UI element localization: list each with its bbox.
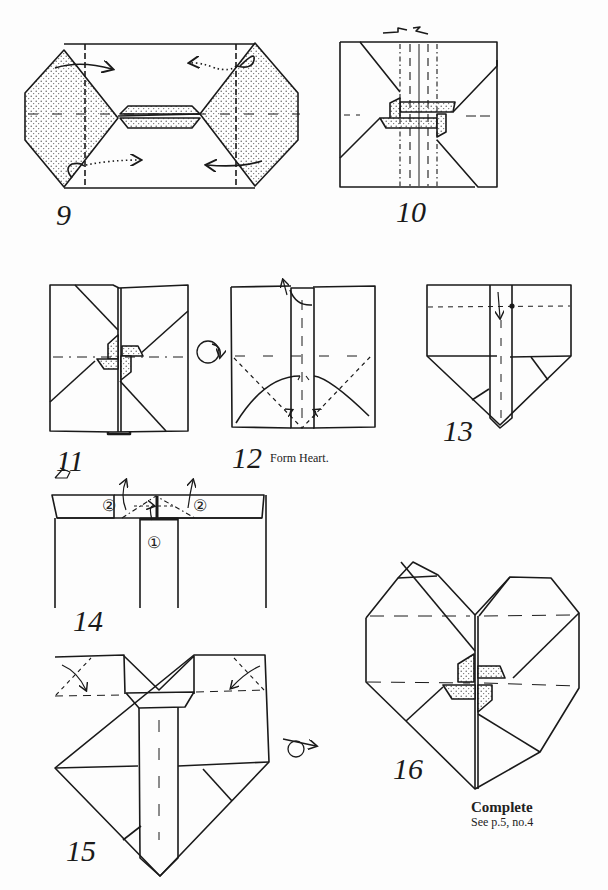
step-number-12: 12 [232, 443, 262, 473]
turn-over-icon [283, 739, 316, 757]
step-number-14: 14 [73, 606, 103, 636]
step-12-diagram [231, 280, 375, 428]
step-number-13: 13 [443, 416, 473, 446]
step-number-9: 9 [56, 200, 71, 230]
step-number-11: 11 [56, 446, 84, 476]
step-14-marker-1: ① [147, 534, 161, 552]
step-number-10: 10 [396, 197, 426, 227]
folding-diagram [0, 0, 608, 890]
step-number-16: 16 [393, 754, 423, 784]
step-10-diagram [340, 27, 497, 187]
step-11-diagram [50, 285, 188, 434]
step-number-15: 15 [66, 836, 96, 866]
complete-title: Complete [471, 799, 533, 815]
step-14-marker-2-left: ② [102, 497, 116, 515]
complete-caption: Complete See p.5, no.4 [471, 799, 533, 830]
step-12-caption: Form Heart. [270, 452, 329, 466]
complete-reference: See p.5, no.4 [471, 815, 533, 829]
turn-over-icon [197, 341, 220, 363]
step-13-diagram [427, 285, 571, 428]
step-14-marker-2-right: ② [193, 497, 207, 515]
step-9-diagram [25, 43, 300, 188]
